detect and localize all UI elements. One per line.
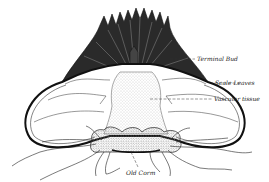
label-old-corm: Old Corm [126,170,155,176]
label-terminal-bud: Terminal Bud [197,56,238,62]
corm-section-drawing [0,0,269,182]
old-corm-shape [90,127,181,152]
label-scale-leaves: Scale Leaves [215,80,255,86]
label-vascular-tissue: Vascular tissue [214,96,260,102]
